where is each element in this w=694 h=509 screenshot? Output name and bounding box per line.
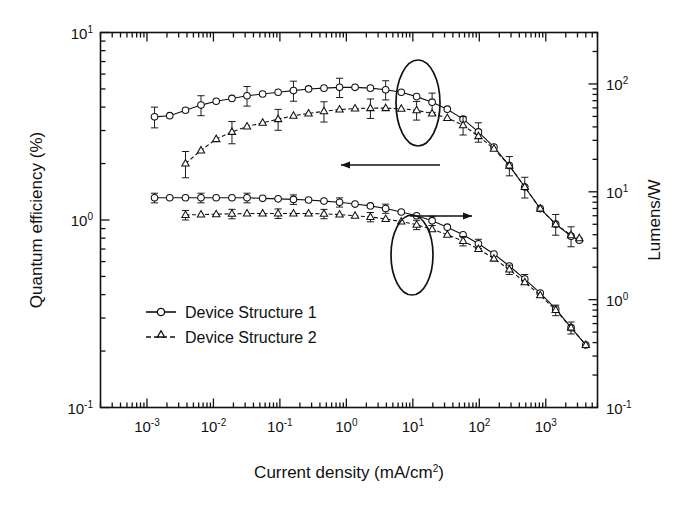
circle-marker-icon [157,308,164,315]
data-point-circle [352,84,359,91]
data-point-circle [290,87,297,94]
data-point-circle [229,95,236,102]
data-point-circle [229,194,236,201]
data-point-circle [382,86,389,93]
data-point-circle [166,194,173,201]
data-point-circle [244,194,251,201]
legend-label-2: Device Structure 2 [185,329,317,346]
bottom-axis-title-tail: ) [438,463,444,482]
data-point-circle [151,194,158,201]
data-point-circle [321,85,328,92]
data-point-circle [198,102,205,109]
data-point-circle [398,89,405,96]
data-point-circle [444,106,451,113]
right-axis-title: Lumens/W [645,179,664,260]
data-point-circle [367,203,374,210]
data-point-circle [336,84,343,91]
data-point-circle [290,196,297,203]
data-point-circle [429,217,436,224]
data-point-circle [213,98,220,105]
data-point-circle [244,92,251,99]
data-point-circle [398,209,405,216]
data-point-circle [259,91,266,98]
legend-label-1: Device Structure 1 [185,304,317,321]
bottom-axis-title-main: Current density (mA/cm [254,463,433,482]
data-point-circle [352,201,359,208]
chart-svg: 10-310-210-110010110210310110010-1102101… [0,0,694,509]
data-point-circle [198,194,205,201]
data-point-circle [166,112,173,119]
data-point-circle [429,99,436,106]
data-point-circle [151,114,158,121]
data-point-circle [275,196,282,203]
data-point-circle [367,85,374,92]
data-point-circle [275,89,282,96]
data-point-circle [321,198,328,205]
data-point-circle [444,224,451,231]
data-point-circle [182,107,189,114]
left-axis-title: Quantum efficiency (%) [27,132,46,308]
data-point-circle [182,194,189,201]
data-point-circle [305,197,312,204]
data-point-circle [336,199,343,206]
data-point-circle [413,93,420,100]
figure-root: 10-310-210-110010110210310110010-1102101… [0,0,694,509]
data-point-circle [213,194,220,201]
data-point-circle [305,86,312,93]
data-point-circle [382,205,389,212]
data-point-circle [259,195,266,202]
bottom-axis-title: Current density (mA/cm2) [254,463,444,482]
